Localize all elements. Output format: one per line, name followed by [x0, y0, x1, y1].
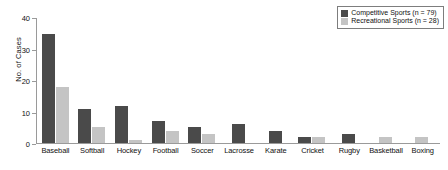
bar-competitive [78, 109, 91, 143]
legend-label-recreational: Recreational Sports (n = 28) [351, 17, 439, 25]
bar-competitive [232, 124, 245, 143]
bar-group [367, 18, 404, 143]
bar-recreational [202, 134, 215, 143]
bar-group [257, 18, 294, 143]
y-tick-mark [32, 18, 36, 19]
bar-group [403, 18, 440, 143]
x-tick-label: Soccer [184, 146, 221, 155]
x-tick-label: Rugby [331, 146, 368, 155]
bar-competitive [42, 34, 55, 143]
bar-group [220, 18, 257, 143]
chart-legend: Competitive Sports (n = 79) Recreational… [337, 6, 444, 29]
bar-recreational [312, 137, 325, 143]
legend-item-recreational: Recreational Sports (n = 28) [341, 17, 439, 25]
bar-recreational [129, 140, 142, 143]
x-tick-label: Cricket [294, 146, 331, 155]
y-tick-label: 10 [22, 108, 30, 117]
y-tick-label: 20 [22, 77, 30, 86]
bar-group [74, 18, 111, 143]
bar-group [293, 18, 330, 143]
bar-recreational [415, 137, 428, 143]
x-tick-label: Lacrosse [221, 146, 258, 155]
x-tick-label: Hockey [110, 146, 147, 155]
legend-label-competitive: Competitive Sports (n = 79) [351, 9, 436, 17]
x-axis-category-labels: BaseballSoftballHockeyFootballSoccerLacr… [37, 146, 441, 155]
bar-group [37, 18, 74, 143]
x-tick-label: Football [147, 146, 184, 155]
bar-competitive [115, 106, 128, 144]
bar-recreational [56, 87, 69, 143]
x-tick-label: Basketball [368, 146, 405, 155]
bar-groups [37, 18, 440, 143]
x-tick-label: Softball [74, 146, 111, 155]
legend-item-competitive: Competitive Sports (n = 79) [341, 9, 439, 17]
x-tick-label: Baseball [37, 146, 74, 155]
y-tick-label: 0 [26, 140, 30, 149]
bar-competitive [269, 131, 282, 144]
bar-competitive [342, 134, 355, 143]
bar-chart: No. of Cases 010203040 BaseballSoftballH… [0, 0, 448, 170]
y-tick-mark [32, 113, 36, 114]
bar-competitive [188, 127, 201, 143]
x-tick-label: Karate [257, 146, 294, 155]
bar-recreational [379, 137, 392, 143]
bar-group [330, 18, 367, 143]
y-tick-label: 40 [22, 14, 30, 23]
y-tick-mark [32, 50, 36, 51]
bar-group [147, 18, 184, 143]
bar-recreational [166, 131, 179, 144]
bar-competitive [152, 121, 165, 143]
bar-group [184, 18, 221, 143]
bar-competitive [298, 137, 311, 143]
plot-area: 010203040 [36, 18, 440, 144]
y-tick-mark [32, 81, 36, 82]
y-tick-mark [32, 144, 36, 145]
y-tick-label: 30 [22, 45, 30, 54]
legend-swatch-recreational-icon [341, 18, 348, 25]
x-axis-line [36, 143, 440, 144]
bar-group [110, 18, 147, 143]
x-tick-label: Boxing [404, 146, 441, 155]
bar-recreational [92, 127, 105, 143]
legend-swatch-competitive-icon [341, 10, 348, 17]
